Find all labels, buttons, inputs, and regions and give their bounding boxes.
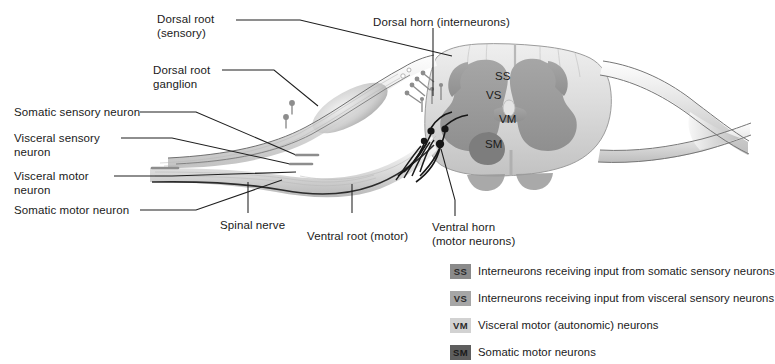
callout-ventral-horn-motor-neurons: Ventral horn (motor neurons) (432, 221, 515, 248)
cord-label-vs: VS (486, 89, 502, 101)
ganglion-pin-markers (284, 101, 294, 128)
callout-dorsal-root-ganglion: Dorsal root ganglion (153, 64, 210, 91)
callout-somatic-motor-neuron: Somatic motor neuron (14, 204, 129, 218)
cord-label-ss: SS (495, 70, 511, 82)
spinal-nerve-bundle-right (598, 61, 751, 163)
callout-spinal-nerve: Spinal nerve (220, 219, 285, 233)
callout-ventral-root-motor: Ventral root (motor) (307, 230, 408, 244)
ventral-root-bumps-2 (516, 173, 553, 190)
callout-somatic-sensory-neuron: Somatic sensory neuron (14, 106, 140, 120)
legend-badge-sm: SM (450, 345, 471, 360)
legend-label-ss: Interneurons receiving input from somati… (478, 265, 775, 277)
callout-visceral-sensory-neuron: Visceral sensory neuron (14, 132, 100, 159)
legend: SS Interneurons receiving input from som… (450, 259, 750, 364)
legend-row: SM Somatic motor neurons (450, 340, 750, 364)
legend-label-sm: Somatic motor neurons (478, 346, 596, 358)
cord-label-vm: VM (499, 113, 517, 125)
legend-label-vm: Visceral motor (autonomic) neurons (478, 319, 658, 331)
legend-badge-vs: VS (450, 291, 471, 306)
legend-row: VM Visceral motor (autonomic) neurons (450, 313, 750, 337)
cord-label-sm: SM (485, 138, 503, 150)
callout-dorsal-root-sensory: Dorsal root (sensory) (157, 13, 214, 40)
legend-badge-vm: VM (450, 318, 471, 333)
legend-row: SS Interneurons receiving input from som… (450, 259, 750, 283)
callout-visceral-motor-neuron: Visceral motor neuron (14, 170, 89, 197)
legend-badge-ss: SS (450, 264, 471, 279)
spinal-cord-section (425, 44, 612, 192)
legend-label-vs: Interneurons receiving input from viscer… (478, 292, 774, 304)
ventral-root-bumps (467, 174, 505, 191)
legend-row: VS Interneurons receiving input from vis… (450, 286, 750, 310)
callout-dorsal-horn-interneurons: Dorsal horn (interneurons) (373, 16, 510, 30)
